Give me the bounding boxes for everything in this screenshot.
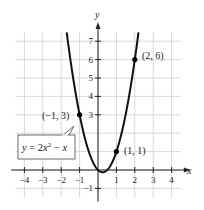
point-label-1-1: (1, 1) xyxy=(124,145,146,157)
x-tick-label: −3 xyxy=(38,175,48,185)
x-tick-label: 1 xyxy=(114,175,119,185)
y-tick-label: 6 xyxy=(89,55,94,65)
y-tick-label: 7 xyxy=(89,36,94,46)
equation-callout: y = 2x2 − x xyxy=(18,126,75,159)
y-axis-arrow-icon xyxy=(96,22,101,29)
point-label-2-6: (2, 6) xyxy=(142,50,164,62)
data-point-marker xyxy=(77,112,82,117)
x-tick-label: 3 xyxy=(151,175,156,185)
x-tick-label: 4 xyxy=(169,175,174,185)
equation-label: y = 2x2 − x xyxy=(21,141,67,153)
y-tick-label: −1 xyxy=(83,183,93,193)
y-axis-label: y xyxy=(94,9,100,20)
x-tick-label: −4 xyxy=(20,175,30,185)
x-axis-label: x xyxy=(186,165,192,176)
x-tick-label: 2 xyxy=(133,175,138,185)
y-tick-label: 4 xyxy=(89,91,94,101)
y-tick-label: 3 xyxy=(89,110,94,120)
parabola-chart: −4−3−2−11234−134567 x y (−1, 3) (1, 1) (… xyxy=(0,0,204,210)
x-tick-label: −2 xyxy=(56,175,66,185)
data-point-marker xyxy=(132,57,137,62)
data-point-marker xyxy=(114,149,119,154)
y-tick-label: 5 xyxy=(89,73,94,83)
point-label-minus1-3: (−1, 3) xyxy=(42,110,69,122)
